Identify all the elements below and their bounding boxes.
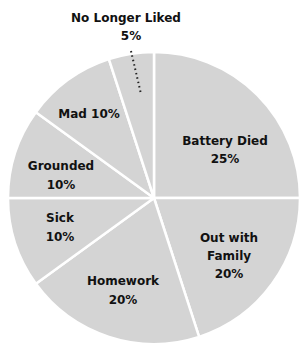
svg-text:Battery Died: Battery Died bbox=[182, 134, 268, 148]
svg-text:10%: 10% bbox=[47, 178, 76, 192]
label-mad: Mad 10% bbox=[58, 107, 120, 121]
svg-text:No Longer Liked: No Longer Liked bbox=[71, 11, 181, 25]
label-no-longer-liked: No Longer Liked 5% bbox=[71, 11, 181, 43]
svg-text:Mad 10%: Mad 10% bbox=[58, 107, 120, 121]
svg-text:Family: Family bbox=[207, 249, 251, 263]
svg-text:5%: 5% bbox=[121, 29, 141, 43]
pie-chart: No Longer Liked 5% Battery Died 25% Out … bbox=[0, 0, 307, 346]
pie-slice-battery-died bbox=[154, 52, 300, 198]
pie-slices bbox=[8, 52, 300, 344]
svg-text:10%: 10% bbox=[46, 230, 75, 244]
svg-text:Out with: Out with bbox=[200, 231, 258, 245]
svg-text:20%: 20% bbox=[109, 293, 138, 307]
svg-text:Grounded: Grounded bbox=[28, 159, 94, 173]
svg-text:Sick: Sick bbox=[46, 211, 75, 225]
svg-text:25%: 25% bbox=[211, 152, 240, 166]
svg-text:Homework: Homework bbox=[87, 274, 160, 288]
svg-text:20%: 20% bbox=[215, 267, 244, 281]
